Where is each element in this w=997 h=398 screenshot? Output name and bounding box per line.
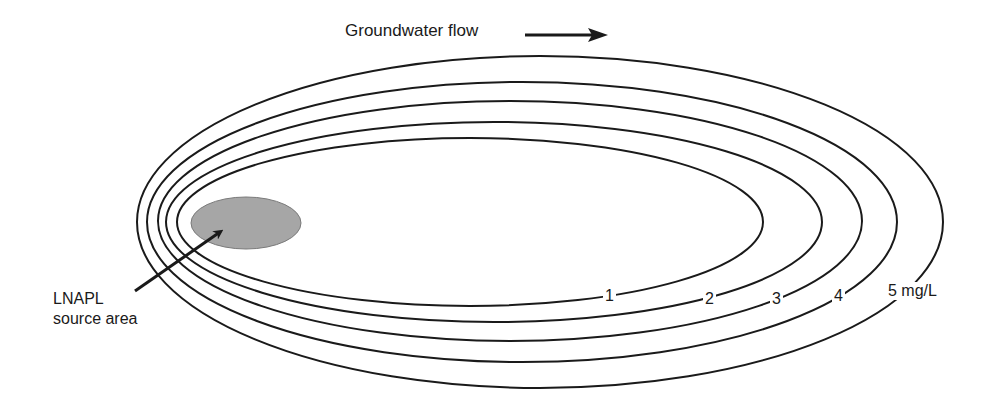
contour-label-1: 1	[603, 287, 616, 305]
lnapl-label-line2: source area	[53, 310, 138, 328]
groundwater-flow-label: Groundwater flow	[345, 22, 478, 40]
contour-label-5: 5 mg/L	[885, 282, 940, 300]
contour-label-3: 3	[770, 290, 783, 308]
lnapl-label-line1: LNAPL	[53, 290, 104, 308]
contour-label-2: 2	[703, 290, 716, 308]
plume-diagram	[0, 0, 997, 398]
contour-label-4: 4	[832, 287, 845, 305]
